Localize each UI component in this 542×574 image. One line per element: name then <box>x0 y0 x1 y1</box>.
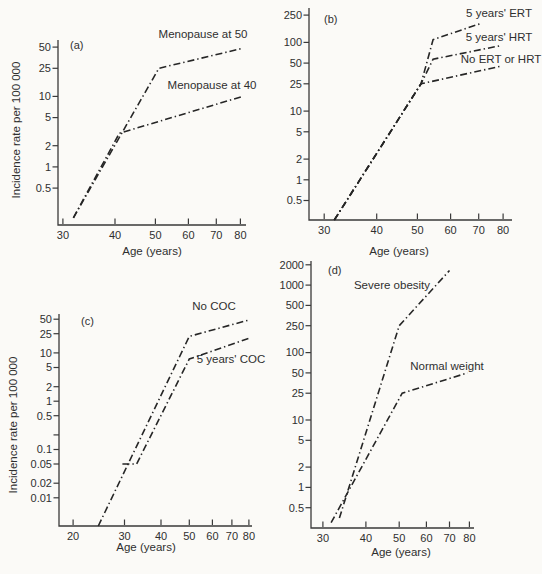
y-tick-label-d: 50 <box>292 367 304 379</box>
y-tick-label-b: 100 <box>284 36 302 48</box>
axis-spines-a <box>58 40 246 225</box>
y-tick-label-a: 1 <box>45 161 51 173</box>
y-tick-label-c: 1 <box>46 395 52 407</box>
x-tick-label-a: 80 <box>234 229 246 241</box>
x-tick-label-d: 60 <box>420 532 432 544</box>
y-tick-label-a: 50 <box>39 41 51 53</box>
series-label-b: 5 years' HRT <box>466 31 533 43</box>
y-tick-label-b: 10 <box>290 105 302 117</box>
y-tick-label-d: 5 <box>298 434 304 446</box>
x-tick-label-d: 30 <box>317 532 329 544</box>
series-line-a <box>73 48 242 218</box>
y-tick-label-d: 250 <box>286 320 304 332</box>
y-tick-label-d: 2 <box>298 461 304 473</box>
y-tick-label-c: 0.1 <box>37 443 52 455</box>
y-tick-label-c: 50 <box>40 313 52 325</box>
panel-a: 5025105210.5304050607080(a)Age (years)Me… <box>36 28 257 257</box>
x-tick-label-a: 50 <box>149 229 161 241</box>
series-label-c: 5 years' COC <box>197 353 266 365</box>
y-tick-label-c: 0.02 <box>31 477 52 489</box>
series-label-b: No ERT or HRT <box>461 53 542 65</box>
figure-canvas: 5025105210.5304050607080(a)Age (years)Me… <box>0 0 542 574</box>
y-axis-title-row1: Incidence rate per 100 000 <box>10 62 22 199</box>
x-tick-label-c: 70 <box>226 530 238 542</box>
x-tick-label-c: 50 <box>183 530 195 542</box>
series-label-d: Normal weight <box>410 360 484 372</box>
y-tick-label-b: 1 <box>296 174 302 186</box>
y-tick-label-a: 5 <box>45 111 51 123</box>
y-tick-label-c: 5 <box>46 361 52 373</box>
x-tick-label-b: 30 <box>318 224 330 236</box>
series-line-d <box>339 271 449 519</box>
y-tick-label-c: 0.01 <box>31 492 52 504</box>
x-tick-label-d: 40 <box>360 532 372 544</box>
panel-letter-a: (a) <box>70 39 83 51</box>
y-tick-label-a: 0.5 <box>36 182 51 194</box>
x-tick-label-a: 40 <box>109 229 121 241</box>
y-tick-label-b: 0.5 <box>287 194 302 206</box>
y-tick-label-b: 25 <box>290 78 302 90</box>
series-line-a <box>73 96 242 217</box>
x-tick-label-d: 70 <box>443 532 455 544</box>
y-tick-label-a: 25 <box>39 62 51 74</box>
y-tick-label-d: 10 <box>292 414 304 426</box>
axis-spines-c <box>59 314 252 526</box>
y-tick-label-b: 50 <box>290 57 302 69</box>
series-label-b: 5 years' ERT <box>466 7 532 19</box>
panel-d: 200010005002501005025105210.530405060708… <box>280 259 485 558</box>
panel-letter-d: (d) <box>328 264 341 276</box>
y-tick-label-c: 10 <box>40 347 52 359</box>
x-tick-label-d: 50 <box>393 532 405 544</box>
y-tick-label-a: 10 <box>39 90 51 102</box>
y-tick-label-c: 2 <box>46 381 52 393</box>
panel-letter-b: (b) <box>324 13 337 25</box>
series-label-d: Severe obesity <box>354 279 430 291</box>
x-axis-title-d: Age (years) <box>371 546 431 558</box>
series-line-c <box>98 320 249 526</box>
y-tick-label-d: 25 <box>292 387 304 399</box>
x-tick-label-a: 60 <box>182 229 194 241</box>
series-label-a: Menopause at 40 <box>168 79 257 91</box>
y-tick-label-c: 0.5 <box>37 410 52 422</box>
x-tick-label-c: 80 <box>243 530 255 542</box>
x-tick-label-c: 20 <box>67 530 79 542</box>
series-line-b <box>334 66 501 220</box>
series-line-d <box>331 373 467 523</box>
y-tick-label-a: 2 <box>45 140 51 152</box>
x-tick-label-c: 60 <box>206 530 218 542</box>
x-tick-label-b: 70 <box>473 224 485 236</box>
panel-letter-c: (c) <box>81 315 94 327</box>
y-tick-label-d: 1000 <box>280 279 304 291</box>
series-line-b <box>334 23 481 220</box>
y-tick-label-b: 5 <box>296 126 302 138</box>
y-tick-label-c: 25 <box>40 328 52 340</box>
y-tick-label-d: 1 <box>298 481 304 493</box>
y-tick-label-b: 2 <box>296 153 302 165</box>
incidence-rate-figure: 5025105210.5304050607080(a)Age (years)Me… <box>0 0 542 574</box>
x-tick-label-b: 60 <box>444 224 456 236</box>
y-tick-label-d: 2000 <box>280 259 304 271</box>
y-tick-label-d: 0.5 <box>289 502 304 514</box>
x-tick-label-a: 30 <box>57 229 69 241</box>
x-tick-label-b: 40 <box>371 224 383 236</box>
x-tick-label-d: 80 <box>463 532 475 544</box>
y-axis-title-row2: Incidence rate per 100 000 <box>7 357 19 494</box>
y-tick-label-d: 100 <box>286 346 304 358</box>
x-tick-label-a: 70 <box>210 229 222 241</box>
y-tick-label-c: 0.05 <box>31 458 52 470</box>
x-axis-title-c: Age (years) <box>116 541 176 553</box>
panel-b: 2501005025105210.5304050607080(b)Age (ye… <box>284 7 542 257</box>
x-axis-title-a: Age (years) <box>122 245 182 257</box>
panel-c: 5025105210.50.10.050.020.012030405060708… <box>31 300 266 553</box>
axis-spines-d <box>311 261 474 528</box>
x-axis-title-b: Age (years) <box>369 245 429 257</box>
series-label-a: Menopause at 50 <box>159 28 248 40</box>
y-tick-label-d: 500 <box>286 299 304 311</box>
x-tick-label-b: 50 <box>411 224 423 236</box>
series-label-c: No COC <box>192 300 235 312</box>
y-tick-label-b: 250 <box>284 9 302 21</box>
x-tick-label-b: 80 <box>497 224 509 236</box>
